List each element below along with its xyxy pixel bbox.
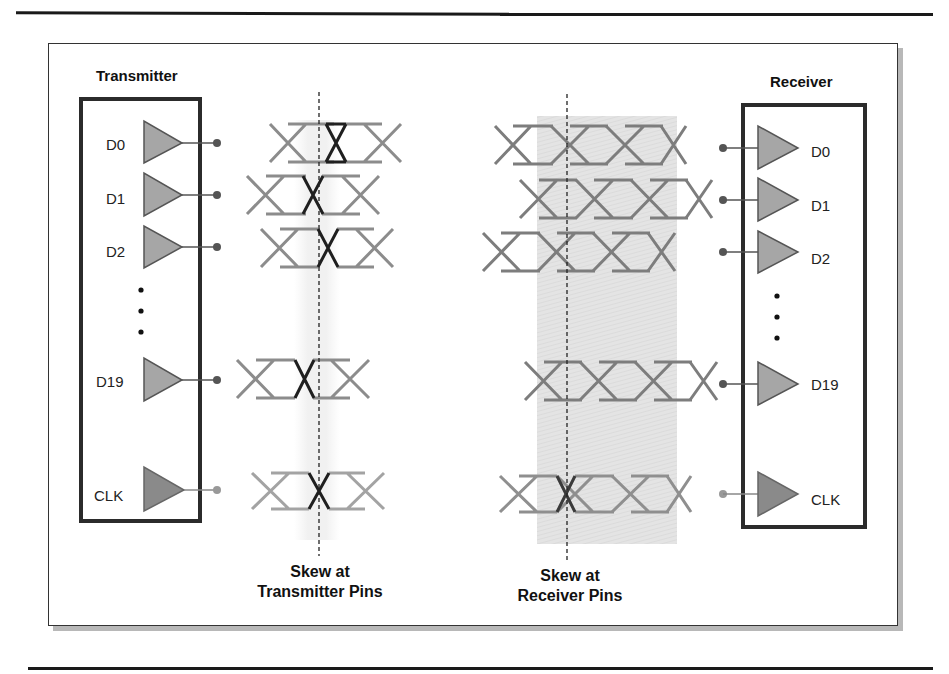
tx-buffer-d1 (144, 173, 221, 216)
tx-label-d1: D1 (106, 190, 125, 207)
tx-pin-d0 (213, 139, 221, 147)
tx-label-d19: D19 (96, 373, 124, 390)
tx-buffer-d0 (144, 121, 221, 163)
rx-caption-line2: Receiver Pins (495, 586, 645, 606)
rx-label-d0: D0 (811, 143, 830, 160)
tx-ellipsis-dots (138, 287, 143, 334)
receiver-box (743, 105, 865, 527)
tx-skew-band (294, 120, 340, 540)
tx-pin-d1 (213, 191, 221, 199)
tx-pin-clk (213, 486, 221, 494)
rx-ellipsis-dots (774, 293, 779, 340)
rx-buffer-d1 (719, 178, 798, 221)
rx-buffer-d19 (719, 362, 798, 405)
rx-label-d1: D1 (811, 197, 830, 214)
rx-buffer-d0 (719, 126, 798, 169)
tx-label-d0: D0 (106, 136, 125, 153)
bottom-rule (28, 667, 933, 670)
skew-diagram (0, 0, 949, 674)
rx-label-d2: D2 (811, 250, 830, 267)
rx-label-d19: D19 (811, 376, 839, 393)
tx-buffer-clk (144, 467, 221, 511)
tx-pin-d19 (213, 376, 221, 384)
rx-caption-line1: Skew at (495, 566, 645, 586)
tx-caption-line1: Skew at (240, 562, 400, 582)
tx-label-d2: D2 (106, 243, 125, 260)
rx-buffer-clk (719, 472, 798, 516)
tx-buffer-d19 (144, 358, 221, 401)
tx-label-clk: CLK (94, 487, 123, 504)
transmitter-title: Transmitter (96, 67, 178, 84)
tx-caption-line2: Transmitter Pins (240, 582, 400, 602)
rx-buffer-d2 (719, 231, 798, 273)
rx-skew-caption: Skew at Receiver Pins (495, 566, 645, 606)
tx-buffer-d2 (144, 226, 221, 268)
tx-skew-caption: Skew at Transmitter Pins (240, 562, 400, 602)
tx-pin-d2 (213, 243, 221, 251)
receiver-title: Receiver (770, 73, 833, 90)
rx-label-clk: CLK (811, 491, 840, 508)
